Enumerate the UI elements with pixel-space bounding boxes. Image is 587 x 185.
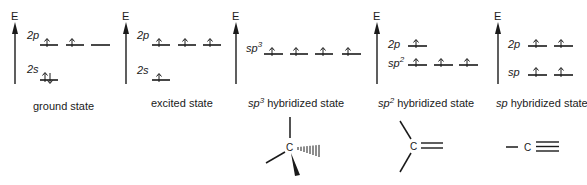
level-label-2p: 2p xyxy=(136,29,149,41)
carbon-atom-label: C xyxy=(524,142,531,153)
energy-arrow-icon xyxy=(123,22,129,84)
panel-sp2-hybridized-state: E 2p sp2 sp2 hybridized state C xyxy=(373,10,478,172)
energy-axis-label: E xyxy=(11,10,18,22)
energy-arrow-icon xyxy=(495,22,501,84)
triple-bond-icon xyxy=(536,142,559,151)
level-label-2p: 2p xyxy=(387,38,400,50)
electron-down-arrow-icon xyxy=(48,73,53,84)
panel-sp3-hybridized-state: E sp3 sp3 hybridized state C xyxy=(232,10,361,176)
orbital-sp3-4 xyxy=(342,48,361,57)
energy-axis-label: E xyxy=(494,10,501,22)
linear-carbon-structure-icon: C xyxy=(506,142,559,153)
hashed-bond-icon xyxy=(298,145,319,157)
orbital-2s-paired xyxy=(40,73,58,84)
orbital-2p-2 xyxy=(554,40,573,49)
energy-axis-label: E xyxy=(373,10,380,22)
energy-axis-label: E xyxy=(232,10,239,22)
trigonal-carbon-structure-icon: C xyxy=(400,121,443,172)
orbital-sp-1 xyxy=(528,68,547,78)
energy-arrow-icon xyxy=(374,22,380,84)
panel-excited-state: E 2p 2s excited state xyxy=(122,10,221,109)
level-label-sp3: sp3 xyxy=(246,40,263,54)
tetrahedral-carbon-structure-icon: C xyxy=(266,117,319,176)
level-label-2p: 2p xyxy=(26,29,39,41)
orbital-sp2-3 xyxy=(459,59,478,68)
orbital-2p-2 xyxy=(66,39,84,48)
orbital-2p-1 xyxy=(40,39,58,48)
orbital-sp2-2 xyxy=(434,59,453,68)
energy-arrow-icon xyxy=(12,22,18,84)
orbital-2p-1 xyxy=(152,39,170,48)
panel-ground-state: E 2p 2s ground state xyxy=(11,10,110,112)
wedge-bond-icon xyxy=(291,153,300,176)
level-label-sp: sp xyxy=(508,66,520,78)
caption-excited-state: excited state xyxy=(151,97,213,109)
caption-sp3-hybridized-state: sp3 hybridized state xyxy=(248,96,344,109)
orbital-sp3-3 xyxy=(315,48,333,57)
caption-sp-hybridized-state: sp hybridized state xyxy=(496,97,587,109)
panel-sp-hybridized-state: E 2p sp sp hybridized state C xyxy=(494,10,587,153)
level-label-sp2: sp2 xyxy=(388,55,405,69)
orbital-sp2-1 xyxy=(408,59,427,68)
orbital-2p-1 xyxy=(528,40,547,49)
orbital-sp3-2 xyxy=(290,48,308,57)
energy-axis-label: E xyxy=(122,10,129,22)
carbon-atom-label: C xyxy=(410,141,417,152)
carbon-atom-label: C xyxy=(286,142,293,153)
orbital-2p-2 xyxy=(178,39,196,48)
orbital-2s xyxy=(152,74,170,83)
level-label-2s: 2s xyxy=(26,63,39,75)
energy-arrow-icon xyxy=(233,22,239,84)
caption-sp2-hybridized-state: sp2 hybridized state xyxy=(378,96,474,109)
level-label-2s: 2s xyxy=(136,64,149,76)
caption-ground-state: ground state xyxy=(33,100,94,112)
orbital-2p xyxy=(408,40,427,49)
level-label-2p: 2p xyxy=(507,38,520,50)
orbital-sp3-1 xyxy=(264,48,283,57)
orbital-sp-2 xyxy=(554,68,573,78)
orbital-hybridization-diagram: E 2p 2s ground state E xyxy=(0,0,587,185)
orbital-2p-3 xyxy=(203,39,221,48)
